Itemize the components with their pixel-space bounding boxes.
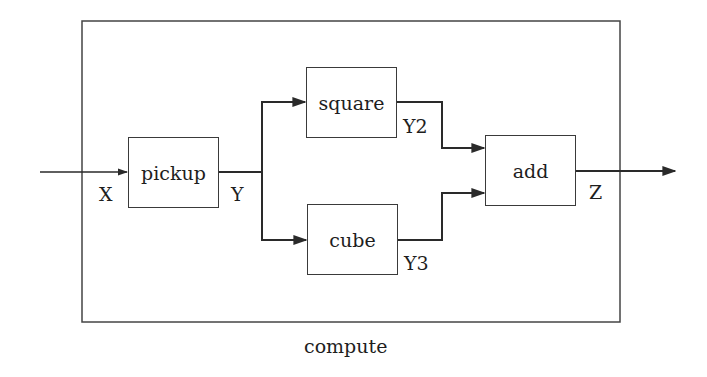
block-add-label: add — [513, 160, 549, 182]
block-square: square — [306, 67, 397, 138]
block-pickup-label: pickup — [141, 162, 206, 184]
block-pickup: pickup — [128, 137, 219, 208]
block-cube-label: cube — [329, 229, 375, 251]
signal-y-to-cube-line — [262, 172, 306, 240]
block-square-label: square — [319, 92, 385, 114]
signal-y2-label: Y2 — [403, 117, 428, 136]
signal-y-to-square-line — [262, 102, 305, 172]
signal-x-label: X — [99, 185, 113, 204]
signal-y-label: Y — [231, 185, 244, 204]
compute-container-label: compute — [304, 337, 387, 356]
block-cube: cube — [307, 204, 398, 275]
signal-z-label: Z — [589, 183, 602, 202]
signal-y3-label: Y3 — [404, 254, 429, 273]
signal-y3-line — [398, 193, 484, 240]
block-add: add — [485, 135, 576, 206]
